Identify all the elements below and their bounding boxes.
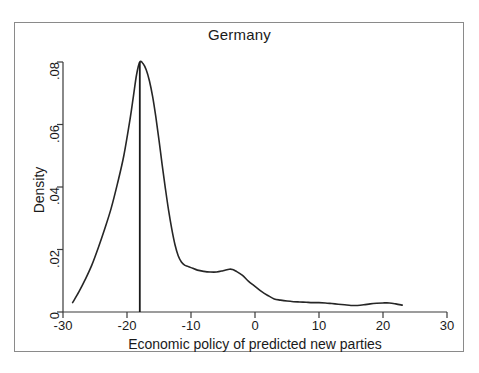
x-tick-label: 0: [251, 318, 258, 333]
y-tick-label: .02: [47, 250, 62, 268]
x-tick-label: -30: [54, 318, 73, 333]
x-tick-label: 30: [440, 318, 454, 333]
y-tick-label: .04: [47, 187, 62, 205]
x-tick-label: -10: [182, 318, 201, 333]
x-tick-label: -20: [118, 318, 137, 333]
figure-container: Germany Density Economic policy of predi…: [0, 0, 479, 373]
y-tick-label: 0: [47, 312, 62, 319]
x-tick-label: 20: [376, 318, 390, 333]
density-curve: [73, 61, 403, 305]
axis-lines: [63, 62, 447, 312]
y-tick-label: .08: [47, 62, 62, 80]
x-tick-label: 10: [312, 318, 326, 333]
y-axis-title: Density: [31, 167, 47, 214]
y-tick-label: .06: [47, 125, 62, 143]
x-axis-title: Economic policy of predicted new parties: [63, 336, 447, 352]
